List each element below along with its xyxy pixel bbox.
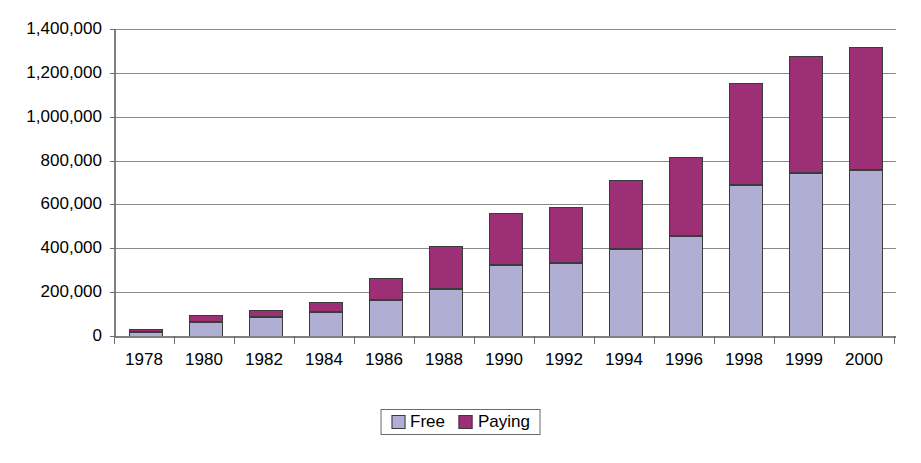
y-axis-labels: 1,400,0001,200,0001,000,000800,000600,00… <box>0 0 112 400</box>
bar-segment-paying[interactable] <box>669 157 703 236</box>
plot-area <box>114 29 896 338</box>
bar-group[interactable] <box>669 29 703 336</box>
bar-stack[interactable] <box>189 315 223 336</box>
legend-swatch-icon <box>391 415 405 429</box>
legend-item[interactable]: Paying <box>459 413 530 430</box>
bar-segment-paying[interactable] <box>609 180 643 249</box>
bar-segment-paying[interactable] <box>369 278 403 300</box>
bar-segment-paying[interactable] <box>309 302 343 312</box>
bar-segment-free[interactable] <box>549 263 583 336</box>
x-axis-tick-mark <box>774 336 775 344</box>
y-axis-tick-label: 1,200,000 <box>26 63 102 83</box>
x-axis-tick-mark <box>294 336 295 344</box>
legend-label: Free <box>410 413 445 430</box>
bar-segment-paying[interactable] <box>429 246 463 289</box>
x-axis-tick-mark <box>834 336 835 344</box>
y-axis-tick-label: 800,000 <box>41 151 102 171</box>
legend-swatch-icon <box>459 415 473 429</box>
bar-segment-paying[interactable] <box>789 56 823 172</box>
x-axis-tick-label: 2000 <box>845 350 883 370</box>
x-axis-tick-mark <box>654 336 655 344</box>
bar-segment-free[interactable] <box>849 170 883 336</box>
x-axis-tick-label: 1978 <box>125 350 163 370</box>
bar-group[interactable] <box>129 29 163 336</box>
y-axis-tick-label: 1,000,000 <box>26 107 102 127</box>
bar-stack[interactable] <box>789 56 823 336</box>
bar-stack[interactable] <box>609 180 643 336</box>
bar-segment-paying[interactable] <box>189 315 223 322</box>
x-axis-labels: 1978198019821984198619881990199219941996… <box>114 350 894 376</box>
bar-segment-free[interactable] <box>249 317 283 336</box>
bar-stack[interactable] <box>249 310 283 336</box>
legend-label: Paying <box>478 413 530 430</box>
bar-segment-free[interactable] <box>489 265 523 336</box>
bar-group[interactable] <box>849 29 883 336</box>
x-axis-tick-mark <box>474 336 475 344</box>
x-axis-ticks <box>114 336 896 345</box>
x-axis-tick-label: 1980 <box>185 350 223 370</box>
legend-item[interactable]: Free <box>391 413 445 430</box>
bar-segment-free[interactable] <box>609 249 643 336</box>
x-axis-tick-label: 1988 <box>425 350 463 370</box>
bar-group[interactable] <box>189 29 223 336</box>
bar-segment-free[interactable] <box>669 236 703 336</box>
y-axis-tick-label: 400,000 <box>41 238 102 258</box>
bar-segment-free[interactable] <box>369 300 403 336</box>
x-axis-tick-mark <box>174 336 175 344</box>
bar-segment-free[interactable] <box>729 185 763 336</box>
y-axis-tick-label: 200,000 <box>41 282 102 302</box>
x-axis-tick-label: 1998 <box>725 350 763 370</box>
x-axis-tick-mark <box>594 336 595 344</box>
plot-wrapper: 1,400,0001,200,0001,000,000800,000600,00… <box>0 0 921 400</box>
x-axis-tick-mark <box>234 336 235 344</box>
bar-segment-paying[interactable] <box>729 83 763 185</box>
x-axis-tick-label: 1982 <box>245 350 283 370</box>
bar-stack[interactable] <box>849 47 883 336</box>
x-axis-tick-label: 1992 <box>545 350 583 370</box>
bar-segment-free[interactable] <box>309 312 343 336</box>
bar-group[interactable] <box>249 29 283 336</box>
bars-layer <box>116 29 896 336</box>
x-axis-tick-label: 1990 <box>485 350 523 370</box>
x-axis-tick-label: 1996 <box>665 350 703 370</box>
bar-group[interactable] <box>729 29 763 336</box>
x-axis-tick-label: 1994 <box>605 350 643 370</box>
x-axis-tick-mark <box>534 336 535 344</box>
bar-group[interactable] <box>789 29 823 336</box>
x-axis-tick-mark <box>114 336 115 344</box>
bar-group[interactable] <box>369 29 403 336</box>
y-axis-tick-label: 1,400,000 <box>26 19 102 39</box>
bar-stack[interactable] <box>729 83 763 336</box>
bar-group[interactable] <box>549 29 583 336</box>
bar-group[interactable] <box>309 29 343 336</box>
bar-segment-free[interactable] <box>429 289 463 336</box>
bar-segment-free[interactable] <box>789 173 823 336</box>
bar-stack[interactable] <box>489 213 523 336</box>
chart-legend: FreePaying <box>380 409 541 435</box>
bar-group[interactable] <box>429 29 463 336</box>
x-axis-tick-label: 1984 <box>305 350 343 370</box>
bar-stack[interactable] <box>669 157 703 336</box>
bar-segment-paying[interactable] <box>249 310 283 318</box>
x-axis-tick-label: 1999 <box>785 350 823 370</box>
x-axis-tick-mark <box>714 336 715 344</box>
y-axis-tick-label: 600,000 <box>41 194 102 214</box>
bar-stack[interactable] <box>429 246 463 336</box>
bar-stack[interactable] <box>309 302 343 336</box>
bar-segment-free[interactable] <box>189 322 223 336</box>
bar-segment-paying[interactable] <box>549 207 583 263</box>
bar-segment-paying[interactable] <box>849 47 883 171</box>
bar-group[interactable] <box>609 29 643 336</box>
chart-container: 1,400,0001,200,0001,000,000800,000600,00… <box>0 0 921 463</box>
x-axis-tick-mark <box>894 336 895 344</box>
bar-segment-paying[interactable] <box>489 213 523 265</box>
bar-stack[interactable] <box>129 329 163 336</box>
bar-group[interactable] <box>489 29 523 336</box>
x-axis-tick-label: 1986 <box>365 350 403 370</box>
bar-stack[interactable] <box>369 278 403 336</box>
y-axis-tick-label: 0 <box>93 326 102 346</box>
x-axis-tick-mark <box>414 336 415 344</box>
bar-stack[interactable] <box>549 207 583 336</box>
x-axis-tick-mark <box>354 336 355 344</box>
